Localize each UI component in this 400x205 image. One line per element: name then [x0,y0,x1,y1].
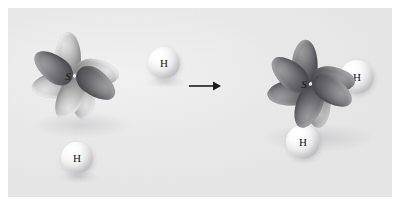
hydrogen-atom-lower: H [61,142,93,174]
hydrogen-label: H [73,152,81,164]
reactant-sulfur-orbitals: S [26,26,110,126]
reaction-arrow [189,79,221,93]
sulfur-label: S [301,78,307,90]
hydrogen-label: H [160,57,168,69]
reaction-arrow-icon [189,79,221,93]
product-sulfur-orbitals: S [262,34,346,134]
figure-canvas: S H H H H S [0,0,400,205]
hydrogen-label: H [299,136,307,148]
sulfur-label: S [65,70,71,82]
hydrogen-atom-upper: H [148,47,180,79]
